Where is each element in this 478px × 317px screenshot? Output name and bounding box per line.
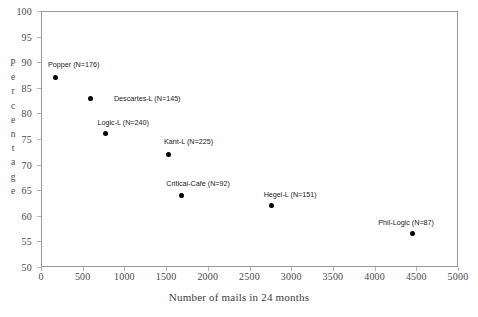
x-tick-mark: [208, 267, 209, 271]
y-tick-label: 100: [16, 6, 32, 17]
x-tick-label: 4000: [364, 271, 385, 282]
x-tick-label: 1500: [156, 271, 177, 282]
data-point: [166, 152, 171, 157]
y-tick-label: 65: [22, 185, 32, 196]
y-tick-mark: [37, 165, 41, 166]
x-tick-mark: [83, 267, 84, 271]
y-tick-mark: [37, 190, 41, 191]
x-tick-label: 2500: [239, 271, 260, 282]
data-point: [179, 193, 184, 198]
y-tick-mark: [37, 241, 41, 242]
data-point-label: Descartes-L (N=145): [114, 94, 181, 103]
x-tick-label: 5000: [448, 271, 469, 282]
x-tick-label: 1000: [114, 271, 135, 282]
y-tick-label: 75: [22, 134, 32, 145]
x-tick-mark: [458, 267, 459, 271]
data-point-label: Hegel-L (N=151): [264, 189, 317, 198]
y-tick-mark: [37, 139, 41, 140]
data-point: [269, 203, 274, 208]
y-tick-mark: [37, 216, 41, 217]
x-tick-mark: [333, 267, 334, 271]
y-tick-label: 50: [22, 262, 32, 273]
scatter-chart: Percentage 50556065707580859095100 Numbe…: [0, 0, 478, 317]
y-tick-label: 60: [22, 210, 32, 221]
x-tick-label: 4500: [406, 271, 427, 282]
data-point-label: Kant-L (N=225): [164, 137, 213, 146]
y-tick-mark: [37, 11, 41, 12]
x-tick-label: 0: [38, 271, 43, 282]
x-tick-mark: [124, 267, 125, 271]
data-point-label: Logic-L (N=240): [97, 117, 148, 126]
plot-area: [41, 11, 458, 267]
x-tick-mark: [291, 267, 292, 271]
y-tick-mark: [37, 37, 41, 38]
data-point-label: Phil-Logic (N=87): [378, 217, 434, 226]
x-axis-title: Number of mails in 24 months: [0, 291, 478, 303]
data-point-label: Critical-Cafe (N=92): [166, 179, 230, 188]
y-tick-mark: [37, 88, 41, 89]
data-point-label: Popper (N=176): [48, 59, 99, 68]
x-tick-label: 3000: [281, 271, 302, 282]
data-point: [88, 96, 93, 101]
y-axis-tick-labels: 50556065707580859095100: [0, 0, 38, 317]
y-tick-mark: [37, 113, 41, 114]
y-tick-label: 70: [22, 159, 32, 170]
y-tick-mark: [37, 62, 41, 63]
data-point: [410, 231, 415, 236]
x-tick-mark: [250, 267, 251, 271]
x-tick-label: 3500: [322, 271, 343, 282]
x-tick-mark: [416, 267, 417, 271]
x-tick-label: 500: [75, 271, 91, 282]
x-tick-label: 2000: [197, 271, 218, 282]
y-tick-label: 95: [22, 31, 32, 42]
y-tick-label: 80: [22, 108, 32, 119]
x-tick-mark: [166, 267, 167, 271]
x-tick-mark: [41, 267, 42, 271]
y-tick-label: 85: [22, 82, 32, 93]
y-tick-label: 55: [22, 236, 32, 247]
x-tick-mark: [375, 267, 376, 271]
y-tick-label: 90: [22, 57, 32, 68]
